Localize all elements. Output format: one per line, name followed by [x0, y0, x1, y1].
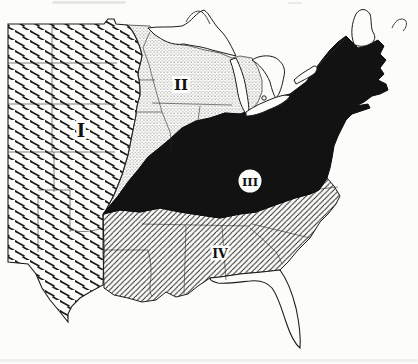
- region-iii-label: III: [242, 175, 258, 189]
- new-brunswick-shore: [392, 19, 406, 31]
- region-i-label: I: [77, 120, 85, 141]
- region-map-figure: I II III IV: [0, 0, 418, 364]
- region-ii-label: II: [174, 76, 188, 94]
- lake-st-clair: [262, 96, 266, 100]
- region-iv-label: IV: [212, 246, 228, 261]
- florida-outline: [210, 270, 300, 348]
- usa-regions-map: I II III IV: [0, 0, 418, 364]
- northern-maine-outline: [352, 10, 375, 47]
